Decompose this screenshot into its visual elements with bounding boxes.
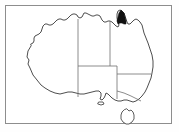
landmass-mainland-australia [27, 10, 153, 102]
australia-map: Map of Australia Outline map of Australi… [0, 0, 179, 132]
figure-root: Map of Australia Outline map of Australi… [0, 0, 179, 132]
landmass-tasmania [121, 109, 134, 124]
landmass-kangaroo-island [98, 102, 104, 105]
